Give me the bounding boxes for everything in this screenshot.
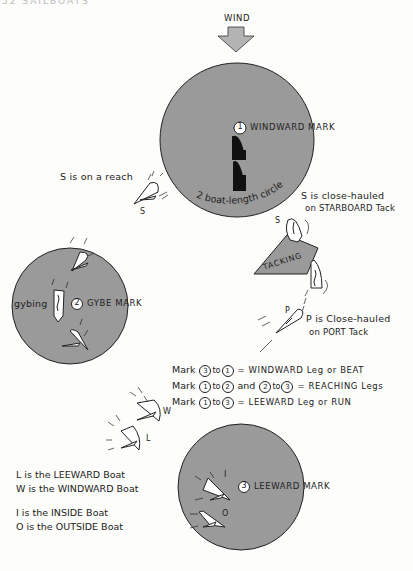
legs-line-beat: Mark 3to1 = WINDWARD Leg or BEAT xyxy=(172,364,364,377)
mark-2-number: 2 xyxy=(73,298,81,307)
wind-label: WIND xyxy=(224,13,250,23)
legs-line-run: Mark 1to3 = LEEWARD Leg or RUN xyxy=(172,396,352,409)
leeward-mark-label: LEEWARD MARK xyxy=(254,481,330,491)
boat-p-port-tack-icon xyxy=(258,309,303,352)
s-tack-boat-label: S xyxy=(275,216,280,225)
legend-inside: I is the INSIDE Boat xyxy=(16,507,108,518)
legend-windward: W is the WINDWARD Boat xyxy=(16,483,138,494)
wind-arrow-icon xyxy=(218,27,254,52)
i-boat-label: I xyxy=(224,470,227,479)
o-boat-label: O xyxy=(222,509,229,518)
windward-mark-label: WINDWARD MARK xyxy=(250,122,335,132)
windward-mark-circle xyxy=(160,63,314,217)
legend-outside: O is the OUTSIDE Boat xyxy=(16,521,123,532)
mark-1-number: 1 xyxy=(236,122,244,131)
p-closehauled-line2: on PORT Tack xyxy=(309,327,368,337)
gybe-mark-label: GYBE MARK xyxy=(87,298,142,308)
w-boat-label: W xyxy=(163,407,171,416)
legend-leeward: L is the LEEWARD Boat xyxy=(16,469,125,480)
s-closehauled-line1: S is close-hauled xyxy=(301,190,384,201)
p-boat-label: P xyxy=(285,306,290,315)
legs-line-reaching: Mark 1to2 and 2to3 = REACHING Legs xyxy=(172,380,383,393)
gybing-label: gybing xyxy=(14,298,48,309)
l-boat-label: L xyxy=(146,434,151,443)
s-reach-label: S is on a reach xyxy=(60,171,133,182)
mark-3-number: 3 xyxy=(240,481,248,490)
boat-s-reach-icon xyxy=(134,171,168,204)
p-closehauled-line1: P is Close-hauled xyxy=(306,313,390,324)
boats-w-l-icon xyxy=(106,387,160,450)
s-closehauled-line2: on STARBOARD Tack xyxy=(305,203,395,213)
s-reach-boat-label: S xyxy=(140,207,145,216)
